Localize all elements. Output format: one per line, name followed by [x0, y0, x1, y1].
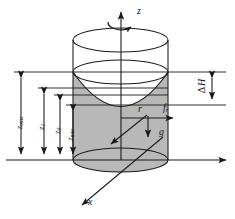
z0-base: z [52, 131, 62, 135]
force-sub: r [166, 106, 168, 113]
z1-base: z [36, 127, 46, 131]
delta-h-base: H [196, 79, 207, 87]
vector-label-fr: fr [163, 103, 168, 114]
dim-label-zmin: zmin [66, 115, 76, 155]
zmin-sub: min [69, 129, 75, 137]
zmax-sub: max [18, 116, 24, 125]
axis-label-x: x [88, 197, 92, 207]
figure-canvas: z x r fr g zmax z1 z0 zmin ΔH [0, 0, 235, 219]
dim-label-delta-h: ΔH [197, 66, 207, 106]
dim-label-z1: z1 [37, 107, 47, 147]
z0-sub: 0 [56, 128, 62, 131]
vector-label-g: g [159, 127, 164, 137]
rotating-fluid-diagram [0, 0, 235, 219]
axis-label-z: z [137, 6, 141, 16]
delta-symbol: Δ [196, 87, 207, 93]
dim-label-z0: z0 [53, 111, 63, 151]
zmax-base: z [14, 126, 24, 130]
vector-label-r: r [138, 104, 142, 114]
zmin-base: z [65, 137, 75, 141]
dim-label-zmax: zmax [15, 101, 25, 145]
z1-sub: 1 [40, 124, 46, 127]
